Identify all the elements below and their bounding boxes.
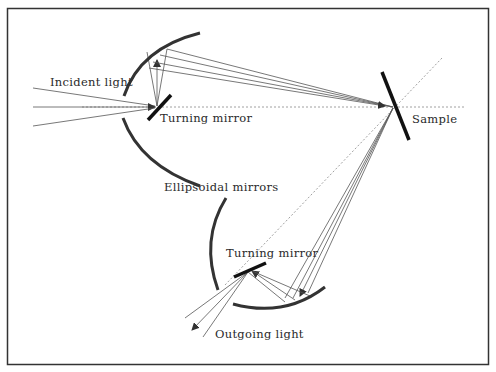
turning-mirror-top-label: Turning mirror [160, 111, 252, 125]
incident-rays [33, 88, 155, 126]
upper-ellipsoidal-mirror [124, 33, 200, 96]
outgoing-light-label: Outgoing light [215, 327, 304, 341]
rays-from-sample [285, 108, 393, 298]
incident-light-label: Incident light [50, 75, 133, 89]
lower-ellipsoidal-mirror-bottom [233, 287, 325, 308]
rays-to-sample [149, 49, 393, 107]
upper-ellipsoidal-mirror-lower-half [123, 118, 200, 186]
lower-ellipsoidal-mirror-left [211, 198, 226, 290]
ellipsoidal-mirrors-label: Ellipsoidal mirrors [164, 180, 278, 194]
optical-diagram: Incident light Turning mirror Sample Ell… [0, 0, 496, 372]
turning-mirror-bottom-label: Turning mirror [226, 246, 318, 260]
rays-to-lower-turning-mirror [248, 271, 310, 302]
sample-label: Sample [412, 112, 457, 126]
